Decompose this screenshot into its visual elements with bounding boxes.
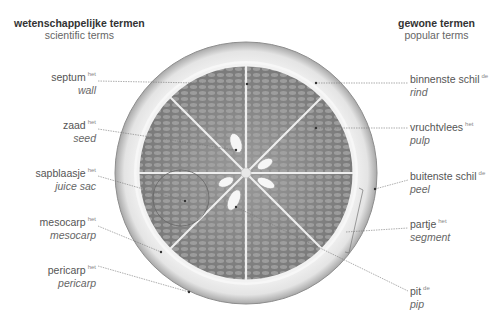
header-left-subtitle: scientific terms	[14, 29, 145, 41]
label-pericarp: pericarphet pericarp	[48, 261, 96, 290]
label-pulp: vruchtvleeshet pulp	[410, 118, 473, 147]
label-pip: pitde pip	[410, 282, 430, 311]
label-segment: partjehet segment	[410, 215, 450, 244]
header-scientific-terms: wetenschappelijke termen scientific term…	[14, 17, 145, 41]
label-rind: binnenste schilde rind	[410, 70, 488, 99]
core	[241, 168, 251, 178]
label-juice-sac: sapblaasjehet juice sac	[35, 164, 96, 193]
header-right-title: gewone termen	[398, 17, 475, 29]
label-peel: buitenste schilde peel	[410, 167, 485, 196]
label-septum: septumhet wall	[51, 68, 96, 97]
header-left-title: wetenschappelijke termen	[14, 17, 145, 29]
label-seed: zaadhet seed	[63, 116, 96, 145]
header-right-subtitle: popular terms	[398, 29, 475, 41]
header-popular-terms: gewone termen popular terms	[398, 17, 475, 41]
label-mesocarp: mesocarphet mesocarp	[40, 213, 96, 242]
